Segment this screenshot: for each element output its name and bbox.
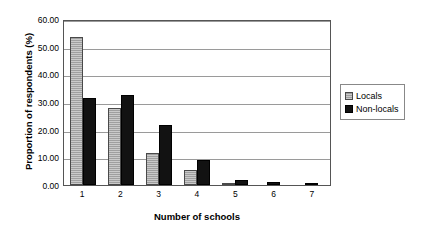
bar-chart-figure: Proportion of respondents (%) 0.0010.002…	[0, 0, 432, 238]
x-axis-tick: 2	[101, 189, 139, 203]
bar	[83, 98, 96, 185]
bar	[159, 125, 172, 185]
y-axis-tick: 20.00	[20, 126, 59, 136]
x-axis-title: Number of schools	[63, 211, 331, 222]
y-axis-tick: 30.00	[20, 98, 59, 108]
legend-swatch-icon	[345, 92, 353, 100]
x-axis-tick: 1	[63, 189, 101, 203]
bar	[305, 183, 318, 185]
bar	[222, 183, 235, 185]
plot-area	[63, 20, 331, 186]
bar-group	[64, 21, 102, 185]
bar	[146, 153, 159, 185]
bar-group	[178, 21, 216, 185]
bar	[235, 180, 248, 185]
chart-legend: LocalsNon-locals	[340, 84, 405, 120]
legend-item[interactable]: Non-locals	[345, 102, 399, 115]
y-axis-tick: 0.00	[20, 181, 59, 191]
x-axis-tick: 6	[254, 189, 292, 203]
x-axis-tick: 5	[216, 189, 254, 203]
bar-group	[140, 21, 178, 185]
legend-label: Locals	[356, 91, 382, 101]
bar-group	[254, 21, 292, 185]
bar	[267, 182, 280, 185]
bar	[184, 170, 197, 185]
x-axis-tick-labels: 1234567	[63, 189, 331, 203]
y-axis-tick: 50.00	[20, 43, 59, 53]
x-axis-tick: 7	[293, 189, 331, 203]
legend-label: Non-locals	[356, 104, 399, 114]
bar-group	[216, 21, 254, 185]
bar	[70, 37, 83, 185]
y-axis-tick-labels: 0.0010.0020.0030.0040.0050.0060.00	[20, 20, 59, 186]
x-axis-tick: 4	[178, 189, 216, 203]
bar	[108, 108, 121, 185]
legend-swatch-icon	[345, 105, 353, 113]
bar	[121, 95, 134, 185]
bar	[197, 160, 210, 185]
y-axis-tick: 10.00	[20, 153, 59, 163]
bar-group	[102, 21, 140, 185]
bar-group	[292, 21, 330, 185]
y-axis-tick: 60.00	[20, 15, 59, 25]
legend-item[interactable]: Locals	[345, 89, 399, 102]
y-axis-tick: 40.00	[20, 70, 59, 80]
x-axis-tick: 3	[140, 189, 178, 203]
bar-groups	[64, 21, 330, 185]
